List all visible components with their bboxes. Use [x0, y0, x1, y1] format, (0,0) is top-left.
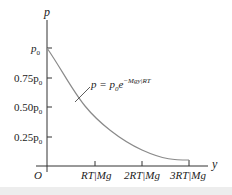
- chart-canvas: [0, 0, 232, 195]
- x-axis-label: y: [212, 158, 217, 170]
- y-tick-label-075: 0.75p0: [14, 73, 42, 87]
- y-tick-label-050: 0.50p0: [14, 102, 42, 116]
- origin-label: O: [34, 170, 42, 181]
- y-tick-label-025: 0.25p0: [14, 132, 42, 146]
- y-axis-label: p: [44, 6, 50, 18]
- x-tick-label-2: 2RT|Mg: [124, 170, 160, 181]
- bottom-band: [0, 187, 232, 195]
- pressure-curve: [47, 48, 189, 160]
- x-tick-label-3: 3RT|Mg: [170, 170, 206, 181]
- y-tick-label-p0: p0: [31, 43, 40, 57]
- x-tick-label-1: RT|Mg: [81, 170, 112, 181]
- curve-equation: p = p0e−Mgy|RT: [91, 78, 151, 93]
